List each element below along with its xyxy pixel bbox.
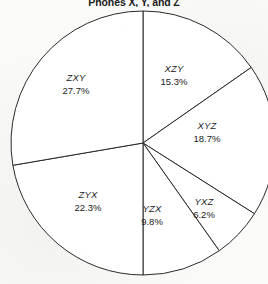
slice-value-text: 27.7% [46,85,106,98]
slice-category-text: YXZ [174,196,234,209]
slice-label: YXZ6.2% [174,196,234,221]
slice-category-text: ZYX [58,189,118,202]
slice-category-text: XZY [144,63,204,76]
slice-value-text: 6.2% [174,209,234,222]
slice-value-text: 18.7% [177,133,237,146]
slice-category-text: XYZ [177,120,237,133]
slice-value-text: 15.3% [144,76,204,89]
slice-category-text: YZX [122,203,182,216]
slice-label: XZY15.3% [144,63,204,88]
slice-category-text: ZXY [46,72,106,85]
chart-page: Phones X, Y, and Z XZY15.3%XYZ18.7%YXZ6.… [0,0,268,284]
slice-label: ZXY27.7% [46,72,106,97]
slice-value-text: 9.8% [122,216,182,229]
slice-label: ZYX22.3% [58,189,118,214]
slice-label: YZX9.8% [122,203,182,228]
slice-label: XYZ18.7% [177,120,237,145]
slice-value-text: 22.3% [58,202,118,215]
